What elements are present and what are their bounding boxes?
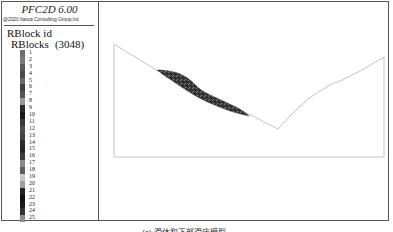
slope-outline — [114, 44, 384, 157]
color-swatch — [20, 153, 25, 160]
legend-item: 16 — [20, 153, 25, 160]
color-swatch — [20, 140, 25, 147]
legend-item: 12 — [20, 126, 25, 133]
legend-item: 21 — [20, 188, 25, 195]
color-swatch — [20, 64, 25, 71]
color-swatch — [20, 98, 25, 105]
legend-divider — [4, 25, 94, 26]
legend-item: 19 — [20, 174, 25, 181]
legend-item: 13 — [20, 133, 25, 140]
color-swatch — [20, 167, 25, 174]
model-view[interactable] — [100, 2, 388, 220]
legend-item-label: 25 — [29, 214, 35, 221]
legend-item: 22 — [20, 195, 25, 202]
legend-item: 7 — [20, 91, 25, 98]
legend-item: 1 — [20, 50, 25, 57]
legend-item: 25 — [20, 215, 25, 222]
legend-item: 8 — [20, 98, 25, 105]
color-swatch — [20, 126, 25, 133]
slope-model-canvas — [100, 2, 388, 220]
legend-item: 15 — [20, 146, 25, 153]
legend-item: 20 — [20, 181, 25, 188]
color-swatch — [20, 202, 25, 209]
legend-item: 18 — [20, 167, 25, 174]
legend-panel: PFC2D 6.00 @2020 Itasca Consulting Group… — [1, 1, 99, 221]
legend-subtitle: RBlocks(3048) — [11, 38, 84, 50]
legend-item: 11 — [20, 119, 25, 126]
legend-item: 2 — [20, 57, 25, 64]
color-swatch — [20, 71, 25, 78]
color-swatch — [20, 119, 25, 126]
figure-caption: (a) 滑体和下部滑床模型 — [142, 226, 226, 232]
color-swatch — [20, 195, 25, 202]
legend-item: 24 — [20, 208, 25, 215]
legend-item: 6 — [20, 84, 25, 91]
copyright-text: @2020 Itasca Consulting Group,Inc — [3, 16, 97, 22]
slide-mass[interactable] — [157, 70, 249, 116]
legend-item: 17 — [20, 160, 25, 167]
app-title: PFC2D 6.00 — [1, 3, 98, 15]
legend-swatch-list: 1234567891011121314151617181920212223242… — [20, 50, 25, 222]
legend-item: 4 — [20, 71, 25, 78]
color-swatch — [20, 160, 25, 167]
color-swatch — [20, 146, 25, 153]
legend-item: 5 — [20, 78, 25, 85]
color-swatch — [20, 84, 25, 91]
rblock-count: (3048) — [55, 38, 84, 50]
legend-item: 10 — [20, 112, 25, 119]
legend-item: 9 — [20, 105, 25, 112]
color-swatch — [20, 208, 25, 215]
color-swatch — [20, 112, 25, 119]
legend-item: 23 — [20, 202, 25, 209]
color-swatch — [20, 133, 25, 140]
color-swatch — [20, 105, 25, 112]
legend-item: 3 — [20, 64, 25, 71]
color-swatch — [20, 188, 25, 195]
color-swatch — [20, 57, 25, 64]
color-swatch — [20, 78, 25, 85]
legend-item: 14 — [20, 140, 25, 147]
color-swatch — [20, 181, 25, 188]
color-swatch — [20, 91, 25, 98]
color-swatch — [20, 50, 25, 57]
color-swatch — [20, 215, 25, 222]
color-swatch — [20, 174, 25, 181]
